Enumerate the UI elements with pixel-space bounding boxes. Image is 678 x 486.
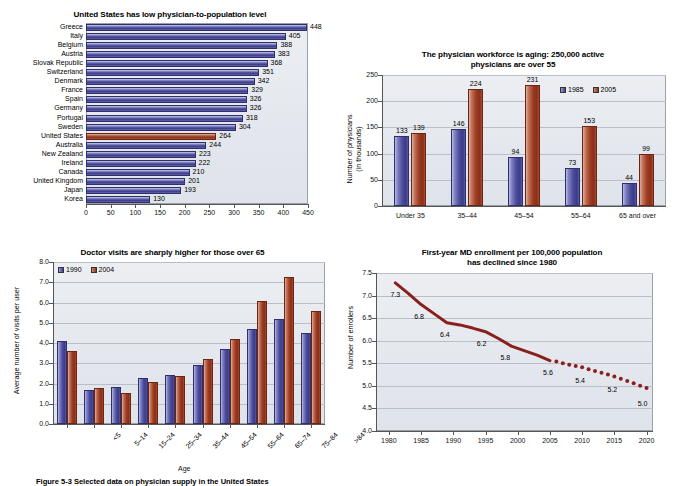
chart3-y-axis-label: Average number of visits per user xyxy=(12,263,21,418)
chart1-tick-7 xyxy=(259,204,260,208)
chart2-bar-65-and-over-1985 xyxy=(622,183,637,206)
legend-swatch-2005 xyxy=(593,87,599,93)
chart3-bar-0-2004 xyxy=(67,351,77,424)
chart4-solid-line xyxy=(395,283,550,361)
chart4-xtick-7 xyxy=(614,431,615,435)
chart3-xtick-1 xyxy=(94,424,95,428)
chart4-xtick-label-3: 1995 xyxy=(472,437,500,444)
chart2-bar-45–54-2005 xyxy=(525,85,540,206)
chart1-xtick-label-9: 450 xyxy=(299,209,317,216)
chart4-dot-2009 xyxy=(574,364,578,368)
chart1-xtick-label-6: 300 xyxy=(225,209,243,216)
chart3-xtick-7 xyxy=(257,424,258,428)
chart1-value-label-1: 405 xyxy=(289,32,301,39)
chart2-xtick-label-3: 55–64 xyxy=(549,212,613,219)
chart2-legend-label-1985: 1985 xyxy=(568,86,584,93)
chart4-xtick-4 xyxy=(518,431,519,435)
chart3-xtick-5 xyxy=(203,424,204,428)
chart2-ytick-label-0: 0 xyxy=(356,202,378,209)
chart1-category-label-15: Ireland xyxy=(0,159,83,166)
chart1-category-label-19: Korea xyxy=(0,195,83,202)
chart1-xtick-label-8: 400 xyxy=(274,209,292,216)
chart2-legend-item-1985: 1985 xyxy=(560,86,584,93)
chart1-xtick-label-2: 100 xyxy=(126,209,144,216)
chart4-ytick-label-3: 5.5 xyxy=(350,359,372,366)
chart3-xtick-0 xyxy=(67,424,68,428)
chart1-tick-0 xyxy=(86,204,87,208)
chart1-bar-8 xyxy=(86,96,247,103)
chart4-dot-2015 xyxy=(612,374,616,378)
chart1-value-label-14: 223 xyxy=(199,150,211,157)
chart1-axis-line xyxy=(86,204,308,205)
chart4-x-axis-line xyxy=(376,431,653,432)
chart2-value-label-0-1: 139 xyxy=(404,124,433,131)
chart4-ytick-label-1: 4.5 xyxy=(350,404,372,411)
chart3-xtick-3 xyxy=(148,424,149,428)
chart1-category-label-3: Austria xyxy=(0,50,83,57)
chart1-category-label-13: Australia xyxy=(0,141,83,148)
chart1-category-label-11: Sweden xyxy=(0,123,83,130)
chart3-ytick-label-7: 7.0 xyxy=(27,278,49,285)
chart1-category-label-1: Italy xyxy=(0,32,83,39)
chart3-ytick-label-6: 6.0 xyxy=(27,299,49,306)
chart1-bar-7 xyxy=(86,87,248,94)
chart1-value-label-3: 383 xyxy=(278,50,290,57)
chart4-dot-2011 xyxy=(587,367,591,371)
chart1-category-label-6: Denmark xyxy=(0,77,83,84)
chart3-bar-3-2004 xyxy=(148,382,158,424)
chart1-value-label-15: 222 xyxy=(199,159,211,166)
chart3-title: Doctor visits are sharply higher for tho… xyxy=(10,248,335,258)
chart1-bar-2 xyxy=(86,42,277,49)
chart1-category-label-16: Canada xyxy=(0,168,83,175)
chart1-value-label-8: 326 xyxy=(250,95,262,102)
chart4-dot-2007 xyxy=(561,361,565,365)
chart1-tick-2 xyxy=(135,204,136,208)
chart3-ytick-label-5: 5.0 xyxy=(27,319,49,326)
chart1-bar-3 xyxy=(86,51,275,58)
chart1-category-label-4: Slovak Republic xyxy=(0,59,83,66)
chart3-bar-7-2004 xyxy=(257,301,267,424)
chart1-bar-12 xyxy=(86,133,216,140)
chart4-ytick-label-2: 5.0 xyxy=(350,382,372,389)
chart2-bar-55–64-2005 xyxy=(582,126,597,206)
chart1-value-label-9: 326 xyxy=(250,104,262,111)
chart2-gridline-4 xyxy=(382,101,666,102)
chart3-legend-item-2004: 2004 xyxy=(91,266,115,273)
chart4-xtick-label-6: 2010 xyxy=(568,437,596,444)
chart1-tick-6 xyxy=(234,204,235,208)
chart3-bar-0-1990 xyxy=(57,341,67,424)
chart3-xtick-4 xyxy=(175,424,176,428)
chart3-bar-8-2004 xyxy=(284,277,294,424)
chart1-xtick-label-4: 200 xyxy=(176,209,194,216)
chart4-dot-2018 xyxy=(632,381,636,385)
chart3-y-axis-line xyxy=(53,262,54,424)
chart2-bar-45–54-1985 xyxy=(508,157,523,206)
chart4-xtick-5 xyxy=(550,431,551,435)
chart1-value-label-2: 388 xyxy=(280,41,292,48)
chart1-bar-10 xyxy=(86,115,243,122)
chart4-annotation-5-0: 5.0 xyxy=(635,400,651,407)
chart1-category-label-17: United Kingdom xyxy=(0,177,83,184)
chart3-legend-label-2004: 2004 xyxy=(99,266,115,273)
chart1-bar-4 xyxy=(86,60,268,67)
chart1-value-label-11: 304 xyxy=(239,123,251,130)
chart1-category-label-8: Spain xyxy=(0,95,83,102)
chart1-tick-8 xyxy=(283,204,284,208)
chart2-value-label-2-1: 231 xyxy=(518,76,547,83)
chart4-xtick-8 xyxy=(647,431,648,435)
figure-caption: Figure 5-3 Selected data on physician su… xyxy=(36,477,269,486)
chart2-ytick-label-3: 150 xyxy=(356,123,378,130)
chart4-dot-2017 xyxy=(625,379,629,383)
chart2-legend-item-2005: 2005 xyxy=(593,86,617,93)
chart-physician-to-population: United States has low physician-to-popul… xyxy=(0,0,340,240)
chart2-bar-35–44-1985 xyxy=(451,129,466,206)
chart4-dot-2012 xyxy=(593,369,597,373)
chart1-tick-3 xyxy=(160,204,161,208)
legend-swatch-2004 xyxy=(91,267,97,273)
chart2-bar-65-and-over-2005 xyxy=(639,154,654,206)
chart3-ytick-label-8: 8.0 xyxy=(27,258,49,265)
chart2-xtick-label-0: Under 35 xyxy=(378,212,442,219)
chart3-bar-2-1990 xyxy=(111,387,121,424)
chart3-legend-label-1990: 1990 xyxy=(66,266,82,273)
chart3-bar-4-1990 xyxy=(165,375,175,424)
